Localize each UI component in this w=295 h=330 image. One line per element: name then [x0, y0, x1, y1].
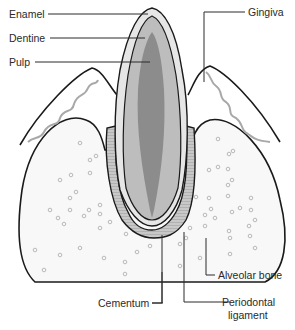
label-alveolar-bone: Alveolar bone: [218, 269, 282, 281]
label-periodontal-ligament-1: Periodontal: [222, 296, 275, 308]
label-dentine: Dentine: [9, 32, 45, 44]
label-pulp: Pulp: [9, 56, 30, 68]
label-gingiva: Gingiva: [248, 6, 284, 18]
label-periodontal-ligament-2: ligament: [228, 309, 268, 321]
label-cementum: Cementum: [98, 297, 149, 309]
label-enamel: Enamel: [9, 8, 45, 20]
